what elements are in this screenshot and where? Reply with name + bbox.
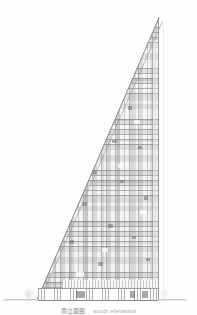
facade-light-panel [110, 86, 117, 90]
ground-floor-podium [38, 288, 158, 301]
facade-light-panel [118, 164, 124, 168]
facade-accent-panel [47, 256, 51, 260]
podium-entrance-opening [130, 291, 135, 298]
facade-light-panel [140, 210, 146, 214]
facade-light-panel [126, 60, 132, 64]
facade-light-panel [134, 120, 140, 124]
service-core-strip [153, 40, 157, 299]
facade-light-panel [68, 192, 75, 196]
facade-accent-panel [144, 196, 148, 200]
facade-light-panel [76, 272, 84, 277]
facade-accent-panel [112, 140, 117, 143]
facade-accent-panel [85, 128, 89, 132]
caption-english: south elevation [93, 308, 136, 314]
facade-accent-panel [104, 94, 108, 98]
caption-chinese: 南立面图 [61, 308, 86, 314]
facade-accent-panel [146, 258, 150, 261]
vertical-facade-edge [158, 17, 159, 299]
podium-entrance-opening [142, 291, 148, 298]
facade-accent-panel [74, 152, 78, 156]
facade-accent-panel [118, 74, 123, 78]
elevation-drawing-canvas: 南立面图 south elevation [0, 0, 197, 315]
facade-accent-panel [138, 146, 142, 149]
tree-icon [160, 289, 169, 299]
facade-accent-panel [120, 180, 124, 183]
facade-light-panel [88, 146, 95, 150]
facade-light-panel [102, 248, 108, 252]
podium-entrance-opening [76, 291, 85, 298]
facade-accent-panel [132, 236, 136, 239]
facade-accent-panel [98, 262, 103, 266]
facade-accent-panel [55, 218, 59, 221]
tree-trunk-icon [28, 294, 29, 300]
facade-accent-panel [70, 240, 74, 244]
vertical-construction-guide [163, 22, 164, 299]
facade-accent-panel [96, 112, 101, 115]
drawing-caption: 南立面图 south elevation [0, 307, 197, 315]
facade-accent-panel [108, 224, 113, 228]
facade-accent-panel [63, 186, 67, 190]
facade-accent-panel [128, 106, 132, 110]
